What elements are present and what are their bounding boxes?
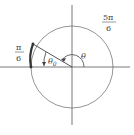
label-pi: π — [16, 43, 21, 52]
label-6-right: 6 — [106, 24, 111, 33]
unit-circle-diagram: 5π 6 π 6 θ θ0 — [0, 0, 134, 135]
label-theta: θ — [81, 52, 86, 61]
label-theta-ref: θ0 — [48, 57, 57, 67]
theta-ref-arrowhead — [42, 62, 46, 66]
label-6-left: 6 — [16, 54, 21, 63]
label-5pi: 5π — [103, 13, 113, 22]
arc-endpoint-bottom — [30, 66, 33, 69]
arc-endpoint-top — [32, 43, 35, 46]
